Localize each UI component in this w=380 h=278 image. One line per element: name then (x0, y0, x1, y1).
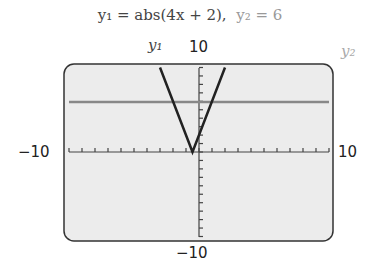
graph-screen (0, 0, 380, 278)
